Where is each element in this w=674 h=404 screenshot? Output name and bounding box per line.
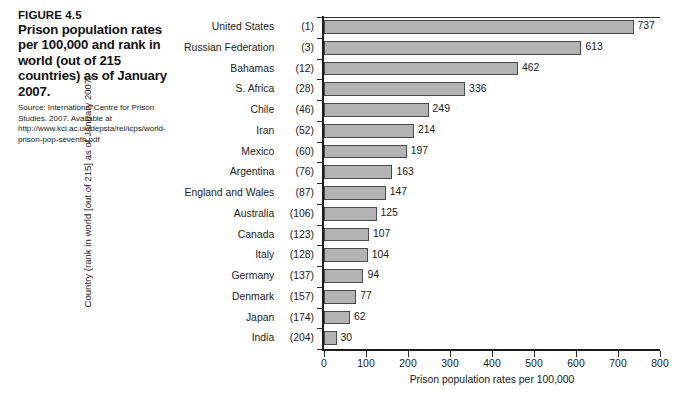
bar [324, 165, 392, 179]
bar-value-label: 214 [418, 123, 435, 137]
country-name: United States [212, 21, 274, 32]
bar [324, 228, 369, 242]
bar-row: 249 [324, 100, 660, 121]
bar [324, 20, 634, 34]
x-axis-tick-label: 600 [567, 358, 584, 369]
y-axis-category-label: United States (1) [212, 17, 314, 38]
bar [324, 207, 377, 221]
bar-chart: Country (rank in world [out of 215] as o… [0, 0, 674, 404]
bar-value-label: 163 [396, 165, 413, 179]
bar-row: 62 [324, 308, 660, 329]
bar-value-label: 613 [585, 40, 602, 54]
country-rank: (174) [280, 308, 314, 329]
country-rank: (204) [280, 328, 314, 349]
bar-row: 125 [324, 204, 660, 225]
y-axis-tick [317, 38, 323, 39]
bar-value-label: 30 [341, 331, 353, 345]
country-rank: (128) [280, 245, 314, 266]
bar [324, 311, 350, 325]
country-name: Bahamas [230, 63, 274, 74]
y-axis-category-label: Italy (128) [255, 245, 314, 266]
bar-row: 107 [324, 225, 660, 246]
x-axis-tick-label: 800 [651, 358, 668, 369]
y-axis-tick [317, 349, 323, 350]
y-axis-tick [317, 225, 323, 226]
bar-row: 197 [324, 142, 660, 163]
bar [324, 124, 414, 138]
country-name: Australia [234, 208, 274, 219]
bar-row: 336 [324, 79, 660, 100]
country-name: Germany [231, 270, 274, 281]
y-axis-category-label: Mexico (60) [241, 142, 314, 163]
bar-row: 147 [324, 183, 660, 204]
y-axis-tick [317, 287, 323, 288]
x-axis-tick [534, 351, 535, 357]
x-axis-tick-label: 0 [321, 358, 327, 369]
country-name: Argentina [230, 166, 274, 177]
bar-row: 462 [324, 59, 660, 80]
x-axis-tick [576, 351, 577, 357]
country-name: Japan [246, 312, 274, 323]
x-axis-tick-label: 500 [525, 358, 542, 369]
country-name: Italy [255, 249, 274, 260]
y-axis-category-label: England and Wales (87) [184, 183, 314, 204]
x-axis-tick [618, 351, 619, 357]
bar [324, 331, 337, 345]
country-rank: (123) [280, 225, 314, 246]
bar [324, 82, 465, 96]
x-axis-tick-label: 100 [357, 358, 374, 369]
x-axis-line [322, 349, 660, 351]
country-rank: (106) [280, 204, 314, 225]
y-axis-title: Country (rank in world [out of 215] as o… [82, 32, 93, 352]
x-axis-tick-label: 400 [483, 358, 500, 369]
y-axis-category-label: Germany (137) [231, 266, 314, 287]
bar-row: 613 [324, 38, 660, 59]
y-axis-tick [317, 183, 323, 184]
bar-row: 77 [324, 287, 660, 308]
y-axis-tick [317, 308, 323, 309]
country-rank: (157) [280, 287, 314, 308]
y-axis-category-label: S. Africa (28) [236, 79, 314, 100]
x-axis-tick-label: 700 [609, 358, 626, 369]
y-axis-category-label: Bahamas (12) [230, 59, 314, 80]
bar-row: 214 [324, 121, 660, 142]
bar-value-label: 147 [390, 185, 407, 199]
y-axis-category-labels: United States (1)Russian Federation (3)B… [180, 17, 314, 349]
y-axis-tick [317, 59, 323, 60]
bar [324, 41, 581, 55]
x-axis-tick [408, 351, 409, 357]
bar [324, 248, 368, 262]
y-axis-tick [317, 162, 323, 163]
y-axis-tick [317, 245, 323, 246]
x-axis-tick [366, 351, 367, 357]
country-rank: (76) [280, 162, 314, 183]
y-axis-tick [317, 204, 323, 205]
bar-value-label: 104 [372, 248, 389, 262]
bar-value-label: 737 [638, 19, 655, 33]
x-axis-tick-label: 200 [399, 358, 416, 369]
y-axis-tick [317, 142, 323, 143]
country-name: S. Africa [236, 83, 275, 94]
bar [324, 103, 429, 117]
y-axis-category-label: Chile (46) [251, 100, 314, 121]
bar-value-label: 107 [373, 227, 390, 241]
plot-area: 7376134623362492141971631471251071049477… [324, 17, 660, 349]
bar-value-label: 249 [433, 102, 450, 116]
country-name: Chile [251, 104, 275, 115]
y-axis-tick [317, 121, 323, 122]
bar-value-label: 62 [354, 310, 366, 324]
y-axis-category-label: Russian Federation (3) [184, 38, 314, 59]
country-rank: (28) [280, 79, 314, 100]
country-rank: (12) [280, 59, 314, 80]
x-axis-tick-label: 300 [441, 358, 458, 369]
bar-value-label: 125 [381, 206, 398, 220]
bar-row: 30 [324, 328, 660, 349]
bar [324, 186, 386, 200]
x-axis-tick [450, 351, 451, 357]
bar-value-label: 197 [411, 144, 428, 158]
bar-row: 737 [324, 17, 660, 38]
x-axis-tick [324, 351, 325, 357]
country-name: India [252, 332, 275, 343]
country-name: Denmark [232, 291, 274, 302]
y-axis-tick [317, 328, 323, 329]
